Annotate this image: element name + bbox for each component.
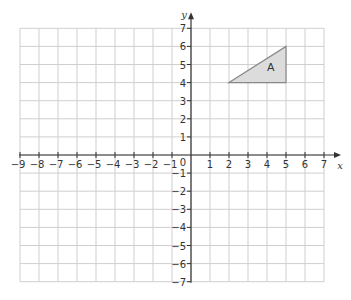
x-tick-label: 2 xyxy=(226,159,232,170)
x-tick-label: −7 xyxy=(49,159,64,170)
coordinate-grid-diagram: A −9−8−7−6−5−4−3−2−112345677654321−1−2−3… xyxy=(0,0,351,300)
y-tick-label: −5 xyxy=(171,241,186,252)
x-tick-label: −8 xyxy=(30,159,45,170)
y-tick-label: 6 xyxy=(180,41,186,52)
y-tick-label: 7 xyxy=(180,23,186,34)
y-tick-label: 4 xyxy=(180,78,186,89)
x-tick-label: 4 xyxy=(264,159,270,170)
x-tick-label: 1 xyxy=(207,159,213,170)
x-axis-label: x xyxy=(337,160,343,171)
y-tick-label: 5 xyxy=(180,60,186,71)
y-tick-label: −4 xyxy=(171,222,186,233)
y-tick-label: −6 xyxy=(171,259,186,270)
x-tick-label: −3 xyxy=(125,159,140,170)
y-axis-arrow-icon xyxy=(188,12,194,19)
origin-label: 0 xyxy=(180,157,186,168)
x-tick-label: −4 xyxy=(106,159,121,170)
x-tick-label: 7 xyxy=(321,159,327,170)
y-tick-label: 1 xyxy=(180,132,186,143)
coordinate-plane: A −9−8−7−6−5−4−3−2−112345677654321−1−2−3… xyxy=(0,0,351,300)
y-tick-label: 2 xyxy=(180,114,186,125)
y-tick-label: −3 xyxy=(171,204,186,215)
y-tick-label: −2 xyxy=(171,186,186,197)
x-axis-arrow-icon xyxy=(334,152,341,158)
x-tick-label: 6 xyxy=(302,159,308,170)
y-tick-label: −1 xyxy=(171,168,186,179)
x-tick-label: 3 xyxy=(245,159,251,170)
y-axis-label: y xyxy=(180,9,187,20)
y-tick-label: −7 xyxy=(171,277,186,288)
y-tick-label: 3 xyxy=(180,96,186,107)
shape-label: A xyxy=(267,61,275,74)
x-tick-label: −2 xyxy=(144,159,159,170)
x-tick-label: 5 xyxy=(283,159,289,170)
x-tick-label: −9 xyxy=(11,159,26,170)
x-tick-label: −5 xyxy=(87,159,102,170)
x-tick-label: −6 xyxy=(68,159,83,170)
